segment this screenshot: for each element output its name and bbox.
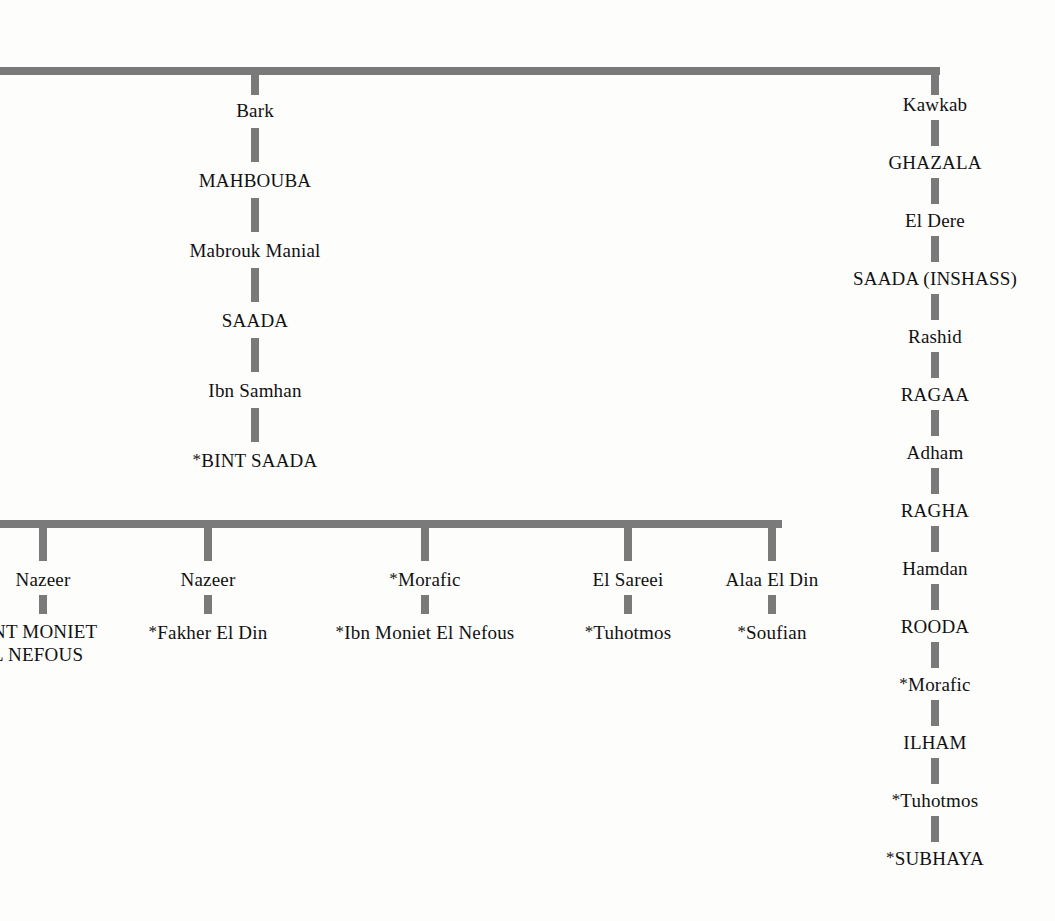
pedigree-name-text: Bark (236, 100, 274, 121)
pedigree-name-text: El Dere (905, 210, 965, 231)
left-chain-name: SAADA (222, 309, 288, 332)
pedigree-name-text: Tuhotmos (900, 790, 978, 811)
pedigree-name-text: SAADA (INSHASS) (853, 268, 1017, 289)
pedigree-name-text: Nazeer (16, 569, 71, 590)
right-chain-link (931, 236, 939, 262)
connector-stem-kawkab (931, 67, 939, 95)
pedigree-name-text: Ibn Moniet El Nefous (344, 622, 514, 643)
branch-stem-to-sire (421, 528, 429, 561)
left-chain-name: *BINT SAADA (193, 448, 318, 472)
right-chain-name: *Tuhotmos (892, 788, 979, 812)
branch-link-sire-offspring (624, 595, 632, 614)
left-chain-name: Mabrouk Manial (189, 239, 320, 262)
pedigree-name-text: ILHAM (903, 732, 966, 753)
right-chain-name: Rashid (908, 325, 962, 348)
branch-link-sire-offspring (39, 595, 47, 614)
pedigree-name-text: Tuhotmos (593, 622, 671, 643)
right-chain-link (931, 584, 939, 610)
pedigree-name-text: Ibn Samhan (208, 380, 301, 401)
left-chain-link (251, 338, 259, 372)
right-chain-link (931, 700, 939, 726)
pedigree-name-text: Morafic (398, 569, 461, 590)
right-chain-link (931, 294, 939, 320)
right-chain-link (931, 816, 939, 842)
pedigree-name-text: Alaa El Din (726, 569, 819, 590)
right-chain-name: *Morafic (899, 672, 970, 696)
right-chain-link (931, 526, 939, 552)
branch-offspring-name: *Soufian (737, 620, 806, 644)
pedigree-name-text: RAGAA (901, 384, 970, 405)
right-chain-name: GHAZALA (888, 151, 981, 174)
right-chain-name: Hamdan (902, 557, 968, 580)
right-chain-link (931, 468, 939, 494)
left-chain-link (251, 128, 259, 162)
pedigree-name-text: El Sareei (593, 569, 664, 590)
pedigree-name-text: Kawkab (903, 94, 968, 115)
branch-offspring-name: NT MONIET L NEFOUS (0, 619, 97, 666)
branch-offspring-name: *Tuhotmos (585, 620, 672, 644)
imported-asterisk: * (336, 622, 345, 641)
pedigree-name-text: ROODA (901, 616, 970, 637)
right-chain-link (931, 410, 939, 436)
imported-asterisk: * (899, 674, 908, 693)
pedigree-name-text: MAHBOUBA (199, 170, 311, 191)
right-chain-name: ROODA (901, 615, 970, 638)
left-chain-link (251, 268, 259, 302)
pedigree-name-text: GHAZALA (888, 152, 981, 173)
imported-asterisk: * (193, 450, 202, 469)
right-chain-name: SAADA (INSHASS) (853, 267, 1017, 290)
imported-asterisk: * (585, 622, 594, 641)
right-chain-name: Kawkab (903, 93, 968, 116)
branch-offspring-name-text: NT MONIET L NEFOUS (0, 621, 97, 665)
right-chain-link (931, 758, 939, 784)
top-horizontal-connector (0, 67, 940, 75)
branch-stem-to-sire (768, 528, 776, 561)
pedigree-name-text: Nazeer (181, 569, 236, 590)
imported-asterisk: * (149, 622, 158, 641)
branch-sire-name: *Morafic (389, 567, 460, 591)
pedigree-chart: BarkMAHBOUBAMabrouk ManialSAADAIbn Samha… (0, 0, 1055, 921)
right-chain-name: Adham (907, 441, 964, 464)
left-chain-link (251, 198, 259, 232)
branch-sire-name: Nazeer (16, 568, 71, 591)
branch-link-sire-offspring (421, 595, 429, 614)
pedigree-name-text: Soufian (746, 622, 807, 643)
imported-asterisk: * (737, 622, 746, 641)
left-chain-name: Ibn Samhan (208, 379, 301, 402)
branch-stem-to-sire (624, 528, 632, 561)
connector-stem-bark (251, 67, 259, 95)
pedigree-name-text: Fakher El Din (157, 622, 267, 643)
branch-stem-to-sire (204, 528, 212, 561)
right-chain-name: ILHAM (903, 731, 966, 754)
pedigree-name-text: SAADA (222, 310, 288, 331)
left-chain-name: Bark (236, 99, 274, 122)
right-chain-link (931, 352, 939, 378)
pedigree-name-text: Hamdan (902, 558, 968, 579)
branch-link-sire-offspring (204, 595, 212, 614)
pedigree-name-text: Adham (907, 442, 964, 463)
branch-offspring-name: *Ibn Moniet El Nefous (336, 620, 515, 644)
imported-asterisk: * (886, 848, 895, 867)
pedigree-name-text: SUBHAYA (895, 848, 984, 869)
pedigree-name-text: Rashid (908, 326, 962, 347)
imported-asterisk: * (892, 790, 901, 809)
branch-stem-to-sire (39, 528, 47, 561)
branch-sire-name: El Sareei (593, 568, 664, 591)
imported-asterisk: * (389, 569, 398, 588)
right-chain-name: RAGHA (901, 499, 970, 522)
pedigree-name-text: BINT SAADA (201, 450, 317, 471)
branch-sire-name: Nazeer (181, 568, 236, 591)
branch-sire-name: Alaa El Din (726, 568, 819, 591)
pedigree-name-text: Mabrouk Manial (189, 240, 320, 261)
branch-link-sire-offspring (768, 595, 776, 614)
left-chain-link (251, 408, 259, 442)
right-chain-link (931, 178, 939, 204)
right-chain-name: RAGAA (901, 383, 970, 406)
bottom-horizontal-connector (0, 520, 782, 528)
pedigree-name-text: Morafic (908, 674, 971, 695)
right-chain-link (931, 120, 939, 146)
branch-offspring-name: *Fakher El Din (149, 620, 268, 644)
right-chain-name: El Dere (905, 209, 965, 232)
right-chain-name: *SUBHAYA (886, 846, 984, 870)
pedigree-name-text: RAGHA (901, 500, 970, 521)
